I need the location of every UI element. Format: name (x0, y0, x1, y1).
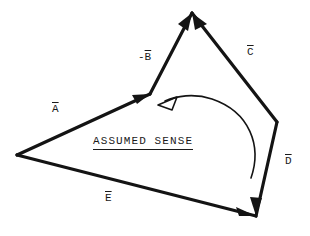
vector-label-A: A (52, 104, 59, 115)
vector-label-negB-prefix: - (138, 51, 145, 63)
vector-E-shaft (17, 155, 256, 216)
vector-D-arrowhead (250, 197, 262, 216)
vector-label-negB-text: B (145, 52, 152, 63)
vector-label-D-text: D (285, 156, 292, 167)
vector-label-C: C (247, 47, 254, 58)
assumed-sense-label: ASSUMED SENSE (93, 136, 193, 150)
vector-C (192, 13, 277, 122)
vector-label-D: D (285, 156, 292, 167)
vector-label-C-text: C (247, 47, 254, 58)
vector-polygon-figure: A -B C D E ASSUMED SENSE (0, 0, 310, 236)
vector-negB-arrowhead (178, 13, 192, 31)
figure-canvas (0, 0, 310, 236)
assumed-sense-arrowhead-icon (158, 97, 177, 110)
vector-C-shaft (192, 13, 277, 122)
vector-label-negB: -B (138, 52, 151, 63)
vector-E (17, 155, 256, 216)
vector-label-E: E (105, 193, 112, 204)
vector-negB (150, 13, 192, 94)
vector-label-E-text: E (105, 193, 112, 204)
vector-label-A-text: A (52, 104, 59, 115)
